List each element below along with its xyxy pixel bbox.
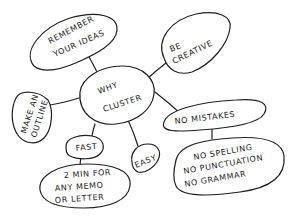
node-fast: FAST	[66, 135, 103, 158]
node-be-creative: BE CREATIVE	[162, 13, 230, 73]
edge-center-easy	[128, 120, 138, 146]
edge-center-creative	[148, 63, 166, 78]
edge-center-fast	[92, 124, 95, 136]
cluster-diagram: REMEMBER YOUR IDEAS BE CREATIVE MAKE AN …	[0, 0, 298, 224]
edge-center-remember	[88, 55, 97, 72]
edge-center-outline	[50, 98, 79, 105]
node-no-spelling: NO SPELLING NO PUNCTUATION NO GRAMMAR	[174, 138, 284, 196]
node-no-mistakes: NO MISTAKES	[163, 100, 266, 131]
edge-center-mistakes	[155, 92, 180, 113]
node-remember-ideas: REMEMBER YOUR IDEAS	[30, 14, 117, 70]
node-make-outline: MAKE AN OUTLINE	[12, 92, 51, 143]
node-easy: EASY	[132, 144, 160, 172]
node-two-min: 2 MIN FOR ANY MEMO OR LETTER	[40, 164, 130, 208]
node-why-cluster: WHY CLUSTER	[80, 66, 154, 124]
